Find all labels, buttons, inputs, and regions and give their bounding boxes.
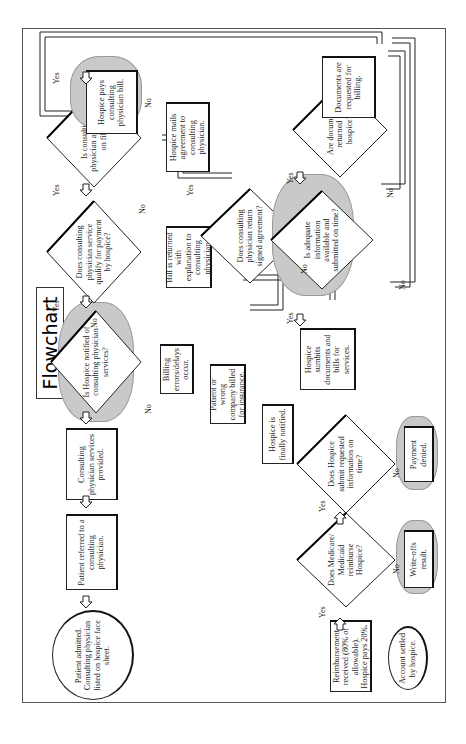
arrow-icons [0,0,466,744]
flowchart-page: Flowchart Patient admitted. Consulting p… [0,0,466,744]
